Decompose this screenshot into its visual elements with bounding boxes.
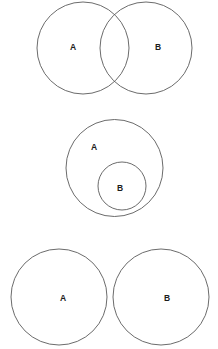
venn-diagram-sheet: A B A B A B — [0, 0, 218, 349]
set-circle-b — [100, 2, 192, 94]
set-label-a: A — [70, 42, 76, 52]
venn-figure-disjoint: A B — [0, 246, 218, 349]
venn-svg-intersecting: A B — [0, 0, 218, 100]
set-label-b: B — [117, 183, 123, 193]
set-circle-a — [37, 2, 129, 94]
venn-figure-subset: A B — [0, 118, 218, 218]
set-label-a: A — [60, 293, 66, 303]
venn-svg-disjoint: A B — [0, 246, 218, 349]
set-label-b: B — [155, 42, 161, 52]
venn-svg-subset: A B — [0, 118, 218, 218]
set-label-a: A — [91, 142, 97, 152]
venn-figure-intersecting: A B — [0, 0, 218, 100]
set-circle-b — [113, 249, 209, 345]
set-circle-a — [66, 120, 163, 217]
set-label-b: B — [164, 293, 170, 303]
